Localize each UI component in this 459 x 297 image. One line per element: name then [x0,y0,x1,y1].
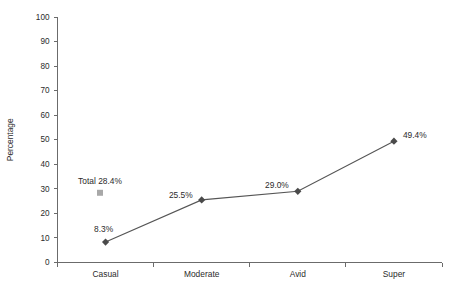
data-point-marker [102,239,109,246]
y-tick-label: 30 [40,185,50,194]
line-chart: 0102030405060708090100 CasualModerateAvi… [0,0,459,297]
x-tick-label: Casual [93,269,119,279]
y-axis-ticks [54,17,58,263]
y-tick-label: 70 [40,86,50,95]
total-annotation-label: Total 28.4% [78,176,122,186]
y-tick-label: 20 [40,209,50,218]
x-tick-label: Moderate [184,269,220,279]
y-tick-label: 10 [40,234,50,243]
x-axis-tick-labels: CasualModerateAvidSuper [93,269,406,279]
series-point-labels: 8.3%25.5%29.0%49.4% [94,130,427,234]
y-tick-label: 90 [40,37,50,46]
y-tick-label: 100 [36,13,50,22]
y-tick-label: 0 [45,258,50,267]
y-tick-label: 50 [40,135,50,144]
data-point-label: 29.0% [265,180,289,190]
y-axis-title: Percentage [5,118,15,161]
x-tick-label: Avid [290,269,306,279]
chart-canvas: 0102030405060708090100 CasualModerateAvi… [0,0,459,297]
data-point-label: 8.3% [94,224,114,234]
y-axis-tick-labels: 0102030405060708090100 [36,13,50,268]
x-tick-label: Super [383,269,406,279]
series-markers [102,138,398,246]
total-annotation: Total 28.4% [78,176,122,196]
data-point-label: 49.4% [403,130,427,140]
data-point-marker [294,188,301,195]
y-tick-label: 80 [40,62,50,71]
total-annotation-square-marker [97,190,103,196]
data-point-label: 25.5% [169,190,193,200]
series-line-percentage [106,141,394,242]
x-axis-ticks [58,263,443,267]
y-tick-label: 60 [40,111,50,120]
y-tick-label: 40 [40,160,50,169]
data-point-marker [390,138,397,145]
data-point-marker [198,196,205,203]
